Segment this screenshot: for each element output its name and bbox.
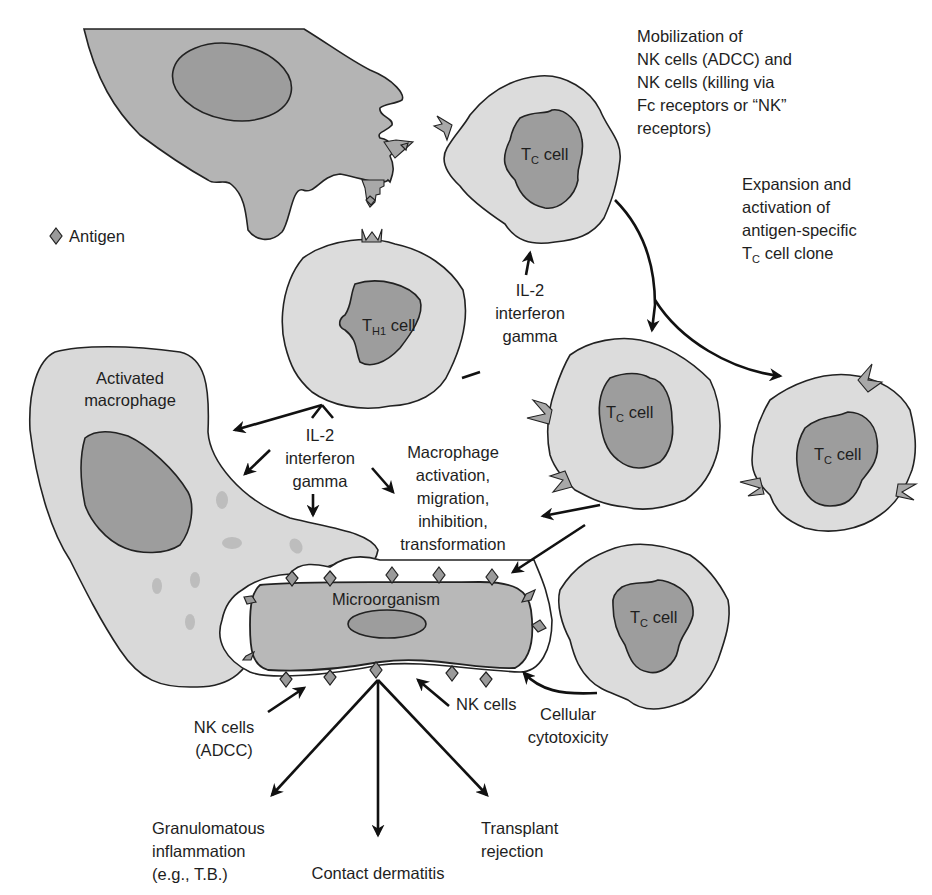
svg-text:antigen-specific: antigen-specific xyxy=(742,221,857,239)
th1-to-cytokine-line xyxy=(462,372,480,378)
svg-text:receptors): receptors) xyxy=(637,119,711,137)
svg-text:rejection: rejection xyxy=(481,842,543,860)
svg-text:Fc receptors or “NK”: Fc receptors or “NK” xyxy=(637,96,786,114)
th1-cell: TH1 cell xyxy=(282,229,465,408)
tc-cell-right: TC cell xyxy=(740,364,916,531)
tc-cell-top: TC cell xyxy=(434,76,620,243)
cytokines-upper-label: IL-2 interferon gamma xyxy=(495,281,565,345)
tc-cell-bottom-label: TC cell xyxy=(630,608,677,629)
svg-text:Cellular: Cellular xyxy=(540,705,596,723)
svg-text:IL-2: IL-2 xyxy=(516,281,544,299)
svg-text:inhibition,: inhibition, xyxy=(418,512,488,530)
svg-text:inflammation: inflammation xyxy=(152,842,246,860)
svg-text:Transplant: Transplant xyxy=(481,819,559,837)
svg-text:Granulomatous: Granulomatous xyxy=(152,819,265,837)
nk-adcc-arrow xyxy=(268,688,304,712)
tc-cell-right-label: TC cell xyxy=(814,445,861,466)
nk-adcc-label: NK cells (ADCC) xyxy=(194,718,255,759)
tc-to-effects-arrow xyxy=(543,505,600,516)
legend-antigen-label: Antigen xyxy=(69,227,125,245)
tc-to-tc-middle-arrow xyxy=(615,200,655,330)
svg-text:cytotoxicity: cytotoxicity xyxy=(528,728,609,746)
microorganism-nucleus xyxy=(348,610,426,638)
expansion-annotation: Expansion and activation of antigen-spec… xyxy=(742,175,857,265)
cytokines-lower-label: IL-2 interferon gamma xyxy=(285,426,355,490)
svg-text:activation of: activation of xyxy=(742,198,830,216)
nk-cells-label: NK cells xyxy=(456,695,517,713)
tc-to-microorganism-arrow xyxy=(513,525,585,572)
svg-text:gamma: gamma xyxy=(502,327,558,345)
microorganism-label: Microorganism xyxy=(332,590,440,608)
tc-cell-bottom: TC cell xyxy=(559,544,729,709)
th1-cell-label: TH1 cell xyxy=(362,316,416,337)
svg-text:(e.g., T.B.): (e.g., T.B.) xyxy=(152,865,228,883)
svg-text:(ADCC): (ADCC) xyxy=(195,741,253,759)
macrophage-label-2: macrophage xyxy=(84,391,176,409)
svg-text:migration,: migration, xyxy=(417,489,489,507)
svg-text:TC cell clone: TC cell clone xyxy=(742,244,833,265)
svg-text:Macrophage: Macrophage xyxy=(407,443,499,461)
tc-cell-top-label: TC cell xyxy=(521,145,568,166)
antigen-presenting-cell xyxy=(84,29,413,239)
immune-response-diagram: Antigen TH1 cell TC cell TC cell TC cell xyxy=(0,0,932,895)
tc-cell-middle: TC cell xyxy=(527,339,720,510)
svg-text:activation,: activation, xyxy=(416,466,490,484)
nk-cells-arrow xyxy=(418,680,449,706)
cytokine-to-effects-arrow xyxy=(372,468,393,492)
tc-cell-middle-label: TC cell xyxy=(606,403,653,424)
macrophage-effects-label: Macrophage activation, migration, inhibi… xyxy=(400,443,505,553)
outcome-granulomatous: Granulomatous inflammation (e.g., T.B.) xyxy=(152,819,265,883)
svg-text:gamma: gamma xyxy=(292,472,348,490)
cytokine-to-macrophage-arrow xyxy=(245,450,270,474)
cellular-cytotoxicity-label: Cellular cytotoxicity xyxy=(528,705,609,746)
microorganism: Microorganism xyxy=(220,557,552,687)
svg-text:transformation: transformation xyxy=(400,535,505,553)
macrophage-label-1: Activated xyxy=(96,369,164,387)
svg-text:interferon: interferon xyxy=(495,304,565,322)
svg-text:Mobilization of: Mobilization of xyxy=(637,27,743,45)
mobilization-annotation: Mobilization of NK cells (ADCC) and NK c… xyxy=(637,27,792,137)
outcome-contact-dermatitis: Contact dermatitis xyxy=(312,864,445,882)
svg-text:NK cells (ADCC) and: NK cells (ADCC) and xyxy=(637,50,792,68)
diamond-icon xyxy=(50,228,62,244)
legend-antigen: Antigen xyxy=(50,227,125,245)
svg-text:interferon: interferon xyxy=(285,449,355,467)
svg-text:NK cells: NK cells xyxy=(194,718,255,736)
cytokine-to-tc-top-arrow xyxy=(526,253,530,275)
outcome-transplant-rejection: Transplant rejection xyxy=(481,819,559,860)
svg-text:NK cells (killing via: NK cells (killing via xyxy=(637,73,775,91)
svg-text:Expansion and: Expansion and xyxy=(742,175,851,193)
svg-text:IL-2: IL-2 xyxy=(306,426,334,444)
